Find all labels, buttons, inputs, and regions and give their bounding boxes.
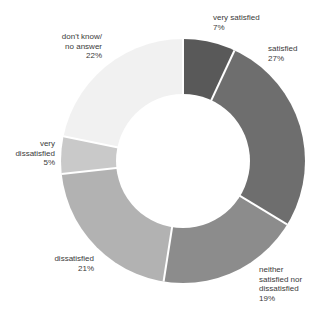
- label-very-satisfied: very satisfied 7%: [213, 13, 260, 32]
- label-text: dissatisfied: [15, 149, 55, 159]
- label-text: satisfied: [268, 44, 297, 54]
- label-text: very: [15, 139, 55, 149]
- label-text: dissatisfied: [54, 254, 94, 264]
- label-neither-satisfied-nor-dissatisfied: neither satisfied nor dissatisfied 19%: [259, 265, 302, 303]
- label-text: dissatisfied: [259, 284, 302, 294]
- label-very-dissatisfied: very dissatisfied 5%: [15, 139, 55, 168]
- label-text: neither: [259, 265, 302, 275]
- label-value: 21%: [54, 264, 94, 274]
- label-text: very satisfied: [213, 13, 260, 23]
- donut-chart: very satisfied 7% satisfied 27% neither …: [0, 0, 326, 326]
- donut-hole: [116, 94, 250, 228]
- label-text: no answer: [62, 42, 102, 52]
- label-value: 22%: [62, 51, 102, 61]
- label-text: satisfied nor: [259, 275, 302, 285]
- label-value: 19%: [259, 294, 302, 304]
- label-value: 5%: [15, 158, 55, 168]
- label-satisfied: satisfied 27%: [268, 44, 297, 63]
- label-dissatisfied: dissatisfied 21%: [54, 254, 94, 273]
- label-value: 27%: [268, 54, 297, 64]
- label-text: don't know/: [62, 32, 102, 42]
- label-value: 7%: [213, 23, 260, 33]
- label-dont-know-no-answer: don't know/ no answer 22%: [62, 32, 102, 61]
